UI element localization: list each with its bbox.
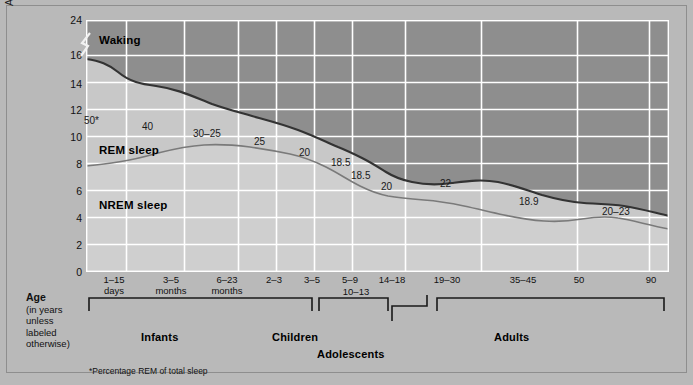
pct-annotation-40: 40 <box>142 121 153 132</box>
bracket-adults <box>437 298 664 311</box>
pct-annotation-22: 22 <box>440 178 451 189</box>
plot-area: Waking REM sleep NREM sleep 50* 40 30–25… <box>86 20 669 272</box>
age-group-label-adults: Adults <box>494 331 529 343</box>
area-label-waking: Waking <box>99 34 141 46</box>
pct-annotation-20-23: 20–23 <box>602 206 630 217</box>
pct-annotation-30-25: 30–25 <box>193 128 221 139</box>
age-group-label-infants: Infants <box>141 331 178 343</box>
chart-footnote: *Percentage REM of total sleep <box>89 366 208 376</box>
x-axis-title-block: Age (in years unless labeled otherwise) <box>26 292 86 350</box>
sleep-chart-figure: Average Hours of Sleep per Day 24 16 14 … <box>0 0 693 385</box>
pct-annotation-20a: 20 <box>299 147 310 158</box>
bracket-infants <box>89 298 312 311</box>
pct-annotation-50: 50* <box>84 115 99 126</box>
y-tick-2: 2 <box>60 240 82 250</box>
area-label-nrem-sleep: NREM sleep <box>99 199 167 211</box>
figure-frame: Average Hours of Sleep per Day 24 16 14 … <box>6 5 687 373</box>
chart-svg <box>86 20 669 272</box>
age-group-label-children: Children <box>272 331 318 343</box>
x-tick-2-3: 2–3 <box>256 274 292 285</box>
pct-annotation-18-5b: 18.5 <box>351 170 370 181</box>
x-tick-14-18: 14–18 <box>370 274 414 285</box>
bracket-adolescents <box>392 295 427 321</box>
y-axis-title: Average Hours of Sleep per Day <box>3 0 17 6</box>
x-tick-3-5-years: 3–5 <box>294 274 330 285</box>
area-label-rem-sleep: REM sleep <box>99 144 159 156</box>
y-tick-0: 0 <box>60 267 82 277</box>
x-tick-6-23-months: 6–23 months <box>201 274 253 296</box>
x-axis-title: Age <box>26 291 46 303</box>
y-tick-8: 8 <box>60 159 82 169</box>
x-tick-35-45: 35–45 <box>501 274 545 285</box>
x-tick-90: 90 <box>638 274 664 285</box>
x-tick-50: 50 <box>566 274 592 285</box>
x-tick-1-15-days: 1–15 days <box>92 274 136 296</box>
axis-break-squiggle-icon <box>79 32 95 58</box>
pct-annotation-25: 25 <box>254 136 265 147</box>
x-tick-19-30: 19–30 <box>425 274 469 285</box>
bracket-children <box>319 298 388 311</box>
x-tick-3-5-months: 3–5 months <box>147 274 195 296</box>
y-tick-12: 12 <box>60 105 82 115</box>
pct-annotation-18-9: 18.9 <box>519 196 538 207</box>
age-group-label-adolescents: Adolescents <box>317 348 385 360</box>
y-tick-24: 24 <box>60 15 82 25</box>
x-tick-label-line1: 3–5 <box>163 274 179 285</box>
x-tick-label-line1: 6–23 <box>216 274 237 285</box>
y-tick-4: 4 <box>60 213 82 223</box>
pct-annotation-18-5a: 18.5 <box>331 157 350 168</box>
x-tick-label-line1: 1–15 <box>103 274 124 285</box>
y-tick-6: 6 <box>60 186 82 196</box>
y-tick-14: 14 <box>60 79 82 89</box>
x-axis-title-note: (in years unless labeled otherwise) <box>26 304 70 350</box>
age-group-brackets <box>86 295 669 329</box>
pct-annotation-20b: 20 <box>381 181 392 192</box>
x-tick-5-9: 5–9 <box>332 274 368 285</box>
y-tick-10: 10 <box>60 132 82 142</box>
